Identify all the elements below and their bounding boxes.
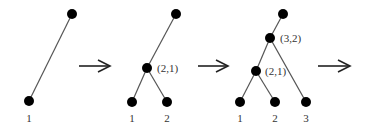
stage-1-tree: 1 — [24, 9, 77, 124]
leaf-label-1: 1 — [237, 112, 243, 124]
leaf-label-1: 1 — [26, 112, 32, 124]
root-node — [171, 9, 181, 19]
internal-node-3-2 — [265, 33, 275, 43]
leaf-label-2: 2 — [272, 112, 278, 124]
right-arrow-icon — [79, 60, 110, 72]
leaf-node-3 — [301, 97, 311, 107]
internal-label-3-2: (3,2) — [280, 32, 301, 45]
leaf-node-1 — [24, 96, 34, 106]
leaf-node-2 — [162, 97, 172, 107]
internal-node-2-1 — [142, 63, 152, 73]
leaf-node-2 — [270, 97, 280, 107]
right-arrow-icon — [198, 60, 228, 72]
tree-merge-diagram: 1 (2,1) 1 2 — [0, 0, 366, 127]
stage-3-tree: (3,2) (2,1) 1 2 3 — [235, 9, 311, 124]
diagram-svg: 1 (2,1) 1 2 — [0, 0, 366, 127]
root-node — [67, 9, 77, 19]
leaf-label-3: 3 — [303, 112, 309, 124]
edge — [132, 68, 147, 102]
internal-node-2-1 — [251, 66, 261, 76]
leaf-label-2: 2 — [164, 112, 170, 124]
edge — [29, 14, 72, 101]
internal-label-2-1: (2,1) — [265, 65, 286, 78]
right-arrow-icon — [318, 60, 350, 72]
leaf-node-1 — [127, 97, 137, 107]
internal-label-2-1: (2,1) — [157, 62, 178, 75]
root-node — [278, 9, 288, 19]
leaf-node-1 — [235, 97, 245, 107]
edge — [240, 71, 256, 102]
edge — [147, 14, 176, 68]
leaf-label-1: 1 — [129, 112, 135, 124]
stage-2-tree: (2,1) 1 2 — [127, 9, 181, 124]
